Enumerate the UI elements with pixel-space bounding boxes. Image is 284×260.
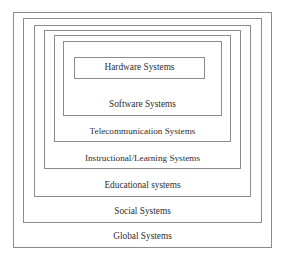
layer-label-educational-systems: Educational systems <box>35 181 250 190</box>
layer-label-telecommunication-systems: Telecommunication Systems <box>55 127 230 136</box>
layer-label-hardware-systems: Hardware Systems <box>75 63 204 72</box>
layer-label-social-systems: Social Systems <box>24 207 261 216</box>
layer-label-instructional-learning-systems: Instructional/Learning Systems <box>45 154 240 163</box>
layer-hardware-systems: Hardware Systems <box>74 57 205 79</box>
layer-label-global-systems: Global Systems <box>14 232 271 241</box>
layer-label-software-systems: Software Systems <box>64 100 221 109</box>
nested-systems-diagram: Global Systems Social Systems Educationa… <box>0 0 284 260</box>
